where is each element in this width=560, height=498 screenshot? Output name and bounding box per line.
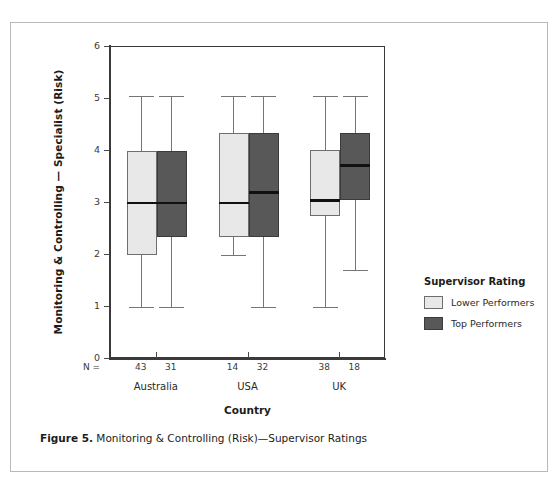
y-axis-tickmark-2 (104, 254, 109, 255)
median-usa-lower (219, 202, 249, 205)
box-australia-top (157, 151, 187, 237)
whisker-cap-lower-uk-lower (313, 307, 338, 308)
whisker-cap-lower-usa-top (251, 307, 276, 308)
y-axis-tickmark-5 (104, 98, 109, 99)
whisker-cap-lower-usa-lower (221, 255, 246, 256)
y-axis-tickmark-3 (104, 202, 109, 203)
whisker-cap-upper-uk-top (343, 96, 368, 97)
whisker-upper-uk-top (355, 96, 356, 132)
n-value-usa-lower: 14 (218, 362, 248, 372)
median-uk-lower (310, 199, 340, 202)
whisker-lower-australia-top (171, 237, 172, 307)
x-axis-tickmark-uk (339, 352, 340, 358)
whisker-cap-lower-australia-top (159, 307, 184, 308)
legend-item-top-performers: Top Performers (424, 317, 544, 330)
y-axis-tick-2: 2 (80, 249, 100, 259)
figure-page: Monitoring & Controlling — Specialist (R… (0, 0, 560, 498)
figure-caption: Figure 5. Monitoring & Controlling (Risk… (40, 432, 510, 444)
median-usa-top (249, 191, 279, 194)
whisker-lower-uk-top (355, 200, 356, 269)
whisker-lower-australia-lower (141, 255, 142, 307)
whisker-upper-australia-top (171, 96, 172, 151)
n-value-usa-top: 32 (248, 362, 278, 372)
n-value-uk-top: 18 (339, 362, 369, 372)
y-axis-tickmark-6 (104, 46, 109, 47)
box-usa-top (249, 133, 279, 237)
n-value-australia-top: 31 (156, 362, 186, 372)
n-value-australia-lower: 43 (126, 362, 156, 372)
y-axis-tickmark-4 (104, 150, 109, 151)
legend: Supervisor Rating Lower Performers Top P… (424, 276, 544, 338)
legend-swatch-light-icon (424, 296, 443, 309)
y-axis-tick-labels: 0123456 (78, 0, 100, 498)
whisker-cap-upper-uk-lower (313, 96, 338, 97)
x-axis-line (109, 358, 386, 360)
x-axis-tickmark-usa (248, 352, 249, 358)
n-value-uk-lower: 38 (309, 362, 339, 372)
y-axis-tick-4: 4 (80, 145, 100, 155)
whisker-cap-lower-uk-top (343, 270, 368, 271)
box-uk-lower (310, 150, 340, 216)
median-uk-top (340, 164, 370, 167)
whisker-upper-usa-top (263, 96, 264, 132)
x-axis-title: Country (110, 404, 385, 416)
y-axis-tick-1: 1 (80, 301, 100, 311)
x-axis-category-usa: USA (208, 381, 288, 392)
median-australia-top (157, 202, 187, 205)
whisker-cap-upper-australia-lower (129, 96, 154, 97)
whisker-upper-uk-lower (325, 96, 326, 150)
y-axis-tick-6: 6 (80, 41, 100, 51)
plot-area (110, 46, 385, 358)
boxplot-layer (111, 47, 384, 357)
legend-title: Supervisor Rating (424, 276, 544, 287)
x-axis-category-australia: Australia (116, 381, 196, 392)
figure-caption-label: Figure 5. (40, 432, 93, 444)
whisker-upper-usa-lower (233, 96, 234, 132)
y-axis-tickmark-0 (104, 358, 109, 359)
median-australia-lower (127, 202, 157, 205)
y-axis-tick-3: 3 (80, 197, 100, 207)
legend-label-lower-performers: Lower Performers (451, 297, 534, 308)
whisker-cap-upper-australia-top (159, 96, 184, 97)
whisker-lower-uk-lower (325, 216, 326, 307)
y-axis-title: Monitoring & Controlling — Specialist (R… (52, 52, 64, 352)
figure-caption-text: Monitoring & Controlling (Risk)—Supervis… (96, 432, 367, 444)
whisker-cap-upper-usa-lower (221, 96, 246, 97)
legend-swatch-dark-icon (424, 317, 443, 330)
whisker-cap-upper-usa-top (251, 96, 276, 97)
x-axis-category-uk: UK (299, 381, 379, 392)
whisker-cap-lower-australia-lower (129, 307, 154, 308)
y-axis-tickmark-1 (104, 306, 109, 307)
legend-item-lower-performers: Lower Performers (424, 296, 544, 309)
n-prefix-label: N = (83, 362, 100, 372)
whisker-lower-usa-top (263, 237, 264, 307)
whisker-lower-usa-lower (233, 237, 234, 255)
x-axis-tickmark-australia (156, 352, 157, 358)
legend-label-top-performers: Top Performers (451, 318, 522, 329)
whisker-upper-australia-lower (141, 96, 142, 151)
box-usa-lower (219, 133, 249, 237)
y-axis-tick-5: 5 (80, 93, 100, 103)
